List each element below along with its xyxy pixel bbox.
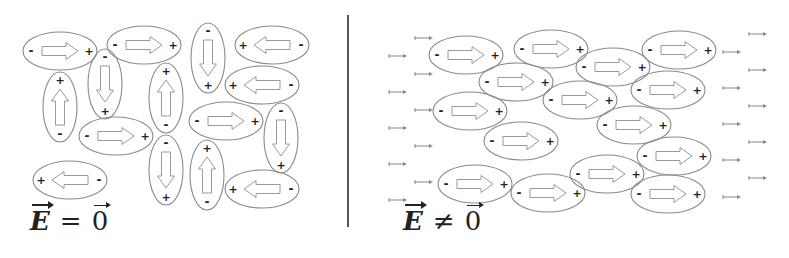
dipole-molecule: +- bbox=[264, 103, 298, 173]
dipole-arrow-icon bbox=[244, 77, 280, 94]
negative-charge-sign: - bbox=[439, 104, 444, 118]
positive-charge-sign: + bbox=[238, 39, 247, 52]
dielectric-polarization-diagram: +-+-+-+-+-+-+-+-+-+-+-+-+-+-+- +-+-+-+-+… bbox=[0, 0, 789, 258]
negative-charge-sign: - bbox=[576, 167, 581, 181]
field-arrow-icon bbox=[415, 144, 433, 148]
zero-vector-symbol: 0 bbox=[465, 208, 482, 234]
dipole-molecule: +- bbox=[511, 174, 585, 212]
negative-charge-sign: - bbox=[582, 60, 587, 74]
positive-charge-sign: + bbox=[36, 174, 45, 187]
dipole-molecule: +- bbox=[631, 175, 705, 213]
negative-charge-sign: - bbox=[549, 93, 554, 107]
positive-charge-sign: + bbox=[658, 119, 667, 132]
positive-charge-sign: + bbox=[161, 191, 170, 204]
dipole-molecule: +- bbox=[43, 72, 77, 142]
positive-charge-sign: + bbox=[540, 76, 549, 89]
right-panel-equation: E≠0 bbox=[403, 208, 481, 234]
dipole-molecule: +- bbox=[149, 63, 183, 133]
negative-charge-sign: - bbox=[205, 195, 210, 209]
not-equals-operator: ≠ bbox=[433, 206, 455, 236]
positive-charge-sign: + bbox=[572, 187, 581, 200]
dipole-arrow-icon bbox=[52, 172, 88, 189]
field-arrow-icon bbox=[389, 162, 407, 166]
electric-field-symbol: E bbox=[30, 208, 50, 234]
field-arrow-icon bbox=[415, 108, 433, 112]
dipole-arrow-icon bbox=[457, 176, 493, 193]
dipole-molecule: +- bbox=[88, 49, 122, 119]
dipole-arrow-icon bbox=[158, 80, 175, 116]
electric-field-symbol: E bbox=[403, 208, 423, 234]
dipole-arrow-icon bbox=[98, 128, 134, 145]
dipole-arrow-icon bbox=[562, 92, 598, 109]
positive-charge-sign: + bbox=[490, 49, 499, 62]
positive-charge-sign: + bbox=[698, 150, 707, 163]
left-panel-equation: E=0 bbox=[30, 208, 108, 234]
negative-charge-sign: - bbox=[97, 173, 102, 187]
positive-charge-sign: + bbox=[55, 74, 64, 87]
field-arrow-icon bbox=[749, 176, 767, 180]
dipole-arrow-icon bbox=[533, 41, 569, 58]
dipole-arrow-icon bbox=[595, 59, 631, 76]
field-arrow-icon bbox=[723, 50, 741, 54]
dipole-molecule: +- bbox=[225, 170, 299, 208]
dipole-arrow-icon bbox=[616, 117, 652, 134]
dipole-molecule: +- bbox=[191, 23, 225, 93]
negative-charge-sign: - bbox=[643, 149, 648, 163]
dipole-arrow-icon bbox=[650, 82, 686, 99]
negative-charge-sign: - bbox=[206, 24, 211, 38]
dipole-molecule: +- bbox=[225, 66, 299, 104]
dipole-arrow-icon bbox=[244, 181, 280, 198]
negative-charge-sign: - bbox=[444, 177, 449, 191]
dipole-arrow-icon bbox=[530, 185, 566, 202]
positive-charge-sign: + bbox=[703, 44, 712, 57]
negative-charge-sign: - bbox=[490, 134, 495, 148]
dipole-molecule: +- bbox=[631, 71, 705, 109]
dipole-arrow-icon bbox=[97, 66, 114, 102]
negative-charge-sign: - bbox=[299, 38, 304, 52]
dipole-arrow-icon bbox=[273, 120, 290, 156]
field-arrow-icon bbox=[389, 90, 407, 94]
dipole-molecule: +- bbox=[235, 26, 309, 64]
negative-charge-sign: - bbox=[435, 48, 440, 62]
positive-charge-sign: + bbox=[228, 183, 237, 196]
positive-charge-sign: + bbox=[575, 43, 584, 56]
negative-charge-sign: - bbox=[195, 114, 200, 128]
positive-charge-sign: + bbox=[140, 130, 149, 143]
dipole-molecule: +- bbox=[642, 31, 716, 69]
positive-charge-sign: + bbox=[100, 105, 109, 118]
positive-charge-sign: + bbox=[631, 168, 640, 181]
dipole-arrow-icon bbox=[199, 157, 216, 193]
dipole-molecule: +- bbox=[107, 26, 181, 64]
positive-charge-sign: + bbox=[604, 94, 613, 107]
positive-charge-sign: + bbox=[228, 79, 237, 92]
negative-charge-sign: - bbox=[113, 38, 118, 52]
negative-charge-sign: - bbox=[648, 43, 653, 57]
positive-charge-sign: + bbox=[168, 39, 177, 52]
dipole-arrow-icon bbox=[650, 186, 686, 203]
dipole-molecule: +- bbox=[438, 165, 512, 203]
negative-charge-sign: - bbox=[603, 118, 608, 132]
dipole-molecule: +- bbox=[189, 102, 263, 140]
dipole-arrow-icon bbox=[656, 148, 692, 165]
negative-charge-sign: - bbox=[637, 83, 642, 97]
positive-charge-sign: + bbox=[692, 188, 701, 201]
positive-charge-sign: + bbox=[494, 105, 503, 118]
positive-charge-sign: + bbox=[203, 79, 212, 92]
dipole-arrow-icon bbox=[52, 89, 69, 125]
dipole-arrow-icon bbox=[42, 43, 78, 60]
dipole-molecule: +- bbox=[23, 32, 97, 70]
negative-charge-sign: - bbox=[29, 44, 34, 58]
negative-charge-sign: - bbox=[485, 75, 490, 89]
dipole-arrow-icon bbox=[661, 42, 697, 59]
dipole-arrow-icon bbox=[448, 47, 484, 64]
dipole-arrow-icon bbox=[208, 113, 244, 130]
negative-charge-sign: - bbox=[289, 182, 294, 196]
positive-charge-sign: + bbox=[637, 61, 646, 74]
dipole-arrow-icon bbox=[158, 152, 175, 188]
negative-charge-sign: - bbox=[520, 42, 525, 56]
negative-charge-sign: - bbox=[279, 104, 284, 118]
field-arrow-icon bbox=[723, 195, 741, 199]
positive-charge-sign: + bbox=[161, 65, 170, 78]
positive-charge-sign: + bbox=[250, 115, 259, 128]
dipole-arrow-icon bbox=[452, 103, 488, 120]
